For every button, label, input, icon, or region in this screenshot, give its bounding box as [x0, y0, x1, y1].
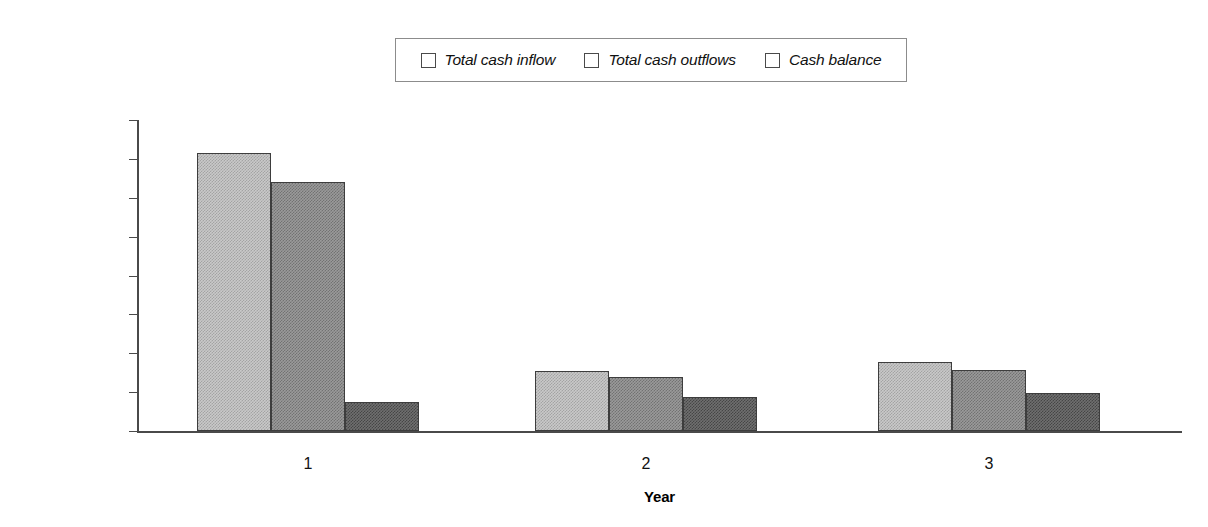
legend-swatch-icon	[765, 53, 780, 68]
y-axis-tick	[129, 353, 137, 354]
legend-item: Cash balance	[765, 52, 881, 68]
legend-swatch-icon	[421, 53, 436, 68]
legend-item: Total cash outflows	[584, 52, 735, 68]
bar	[345, 402, 419, 431]
y-axis-tick	[129, 120, 137, 121]
chart-legend: Total cash inflow Total cash outflows Ca…	[395, 38, 907, 82]
x-axis-line	[137, 431, 1182, 433]
y-axis-line	[137, 120, 139, 431]
bar	[1026, 393, 1100, 431]
bar	[952, 370, 1026, 431]
bar	[535, 371, 609, 431]
x-axis-tick-label: 2	[642, 455, 651, 473]
y-axis-tick	[129, 431, 137, 432]
legend-item-label: Cash balance	[789, 52, 881, 68]
y-axis-tick	[129, 198, 137, 199]
y-axis-tick	[129, 392, 137, 393]
bar	[878, 362, 952, 431]
legend-item: Total cash inflow	[421, 52, 556, 68]
x-axis-tick-label: 3	[985, 455, 994, 473]
bar	[197, 153, 271, 431]
y-axis-tick	[129, 237, 137, 238]
plot-area: $0$100,000$200,000$300,000$400,000$500,0…	[137, 120, 1182, 431]
bar	[683, 397, 757, 431]
x-axis-tick-label: 1	[304, 455, 313, 473]
x-axis-title: Year	[137, 488, 1182, 505]
y-axis-tick	[129, 276, 137, 277]
y-axis-tick	[129, 314, 137, 315]
legend-item-label: Total cash inflow	[445, 52, 556, 68]
legend-item-label: Total cash outflows	[608, 52, 735, 68]
legend-swatch-icon	[584, 53, 599, 68]
bar	[609, 377, 683, 431]
y-axis-tick	[129, 159, 137, 160]
bar-chart: Total cash inflow Total cash outflows Ca…	[0, 0, 1208, 527]
bar	[271, 182, 345, 431]
